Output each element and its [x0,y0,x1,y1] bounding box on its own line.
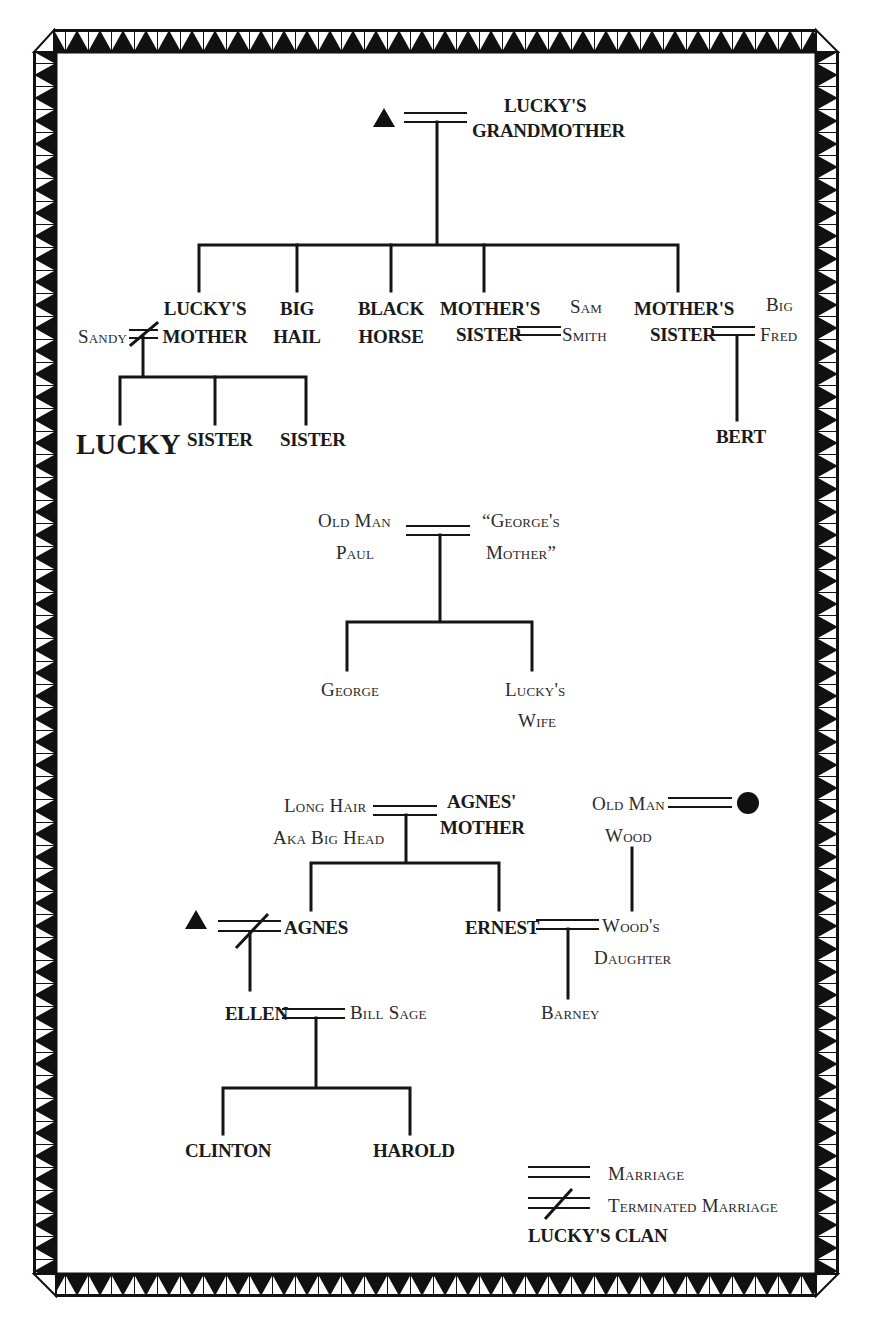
woods-daughter-line1: Wood's [602,916,660,935]
sister-1-label: SISTER [187,430,253,449]
harold-label: HAROLD [373,1141,455,1160]
legend-marriage-symbol [528,1167,590,1177]
woods-daughter-line2: Daughter [594,948,671,967]
male-triangle-1 [373,108,395,127]
mothers-sister-1-line1: MOTHER'S [440,299,540,318]
black-horse-line2: HORSE [350,327,432,346]
sam-smith-line1: Sam [570,297,602,316]
luckys-mother-line1: LUCKY'S [160,299,250,318]
tree1-lines [120,113,754,424]
ernest-label: ERNEST [465,918,539,937]
georges-mother-line1: “George's [482,511,560,530]
luckys-grandmother-line2: GRANDMOTHER [472,121,625,140]
george-label: George [321,680,379,699]
sister-2-label: SISTER [280,430,346,449]
lucky-label: LUCKY [76,430,181,459]
sam-smith-line2: Smith [562,325,607,344]
georges-mother-line2: Mother” [486,543,556,562]
mothers-sister-2-line1: MOTHER'S [634,299,734,318]
old-man-wood-line1: Old Man [592,794,665,813]
luckys-wife-line2: Wife [518,711,556,730]
ellen-label: ELLEN [225,1004,288,1023]
legend-marriage-label: Marriage [608,1164,684,1183]
luckys-grandmother-line1: LUCKY'S [504,96,586,115]
big-fred-line1: Big [766,295,793,314]
male-triangle-2 [185,910,207,929]
black-horse-line1: BLACK [350,299,432,318]
old-man-wood-line2: Wood [605,826,652,845]
legend-clan-label: LUCKY'S CLAN [528,1226,667,1245]
big-hail-line1: BIG [262,299,332,318]
long-hair-line1: Long Hair [284,796,366,815]
big-hail-line2: HAIL [262,327,332,346]
barney-label: Barney [541,1003,600,1022]
decorative-border [0,0,872,1326]
legend-terminated-label: Terminated Marriage [608,1196,778,1215]
agnes-mother-line2: MOTHER [440,818,525,837]
long-hair-line2: Aka Big Head [273,828,384,847]
luckys-wife-line1: Lucky's [505,680,566,699]
big-fred-line2: Fred [760,325,797,344]
agnes-label: AGNES [284,918,348,937]
mothers-sister-2-line2: SISTER [650,325,716,344]
old-man-paul-line1: Old Man [318,511,391,530]
mothers-sister-1-line2: SISTER [456,325,522,344]
clinton-label: CLINTON [185,1141,271,1160]
sandy-label: Sandy [78,327,127,346]
bert-label: BERT [716,427,766,446]
legend-slash [545,1189,572,1219]
old-man-paul-line2: Paul [336,543,374,562]
bill-sage-label: Bill Sage [350,1003,427,1022]
female-circle [737,792,759,814]
agnes-mother-line1: AGNES' [447,792,516,811]
luckys-mother-line2: MOTHER [160,327,250,346]
